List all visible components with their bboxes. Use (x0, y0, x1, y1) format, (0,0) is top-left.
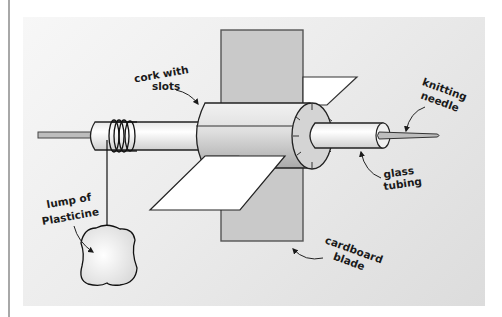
spinner-apparatus-diagram: cork with slots knitting needle glass tu… (0, 0, 502, 317)
upper-blade-slot (303, 77, 357, 105)
knitting-needle (378, 132, 440, 139)
plasticine-lump (81, 225, 137, 285)
label-cork-with-slots: cork with slots (133, 63, 198, 104)
needle-left-end (38, 132, 93, 138)
label-glass-tubing: glass tubing (361, 152, 423, 192)
label-knitting-needle: knitting needle (406, 75, 469, 131)
label-cardboard-blade: cardboard blade (293, 234, 385, 273)
